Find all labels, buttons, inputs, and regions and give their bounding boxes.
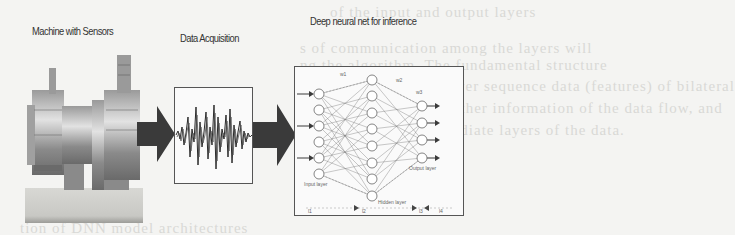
svg-text:Hidden layer: Hidden layer bbox=[378, 199, 406, 205]
bleed-text-2: s of communication among the layers will bbox=[300, 40, 592, 57]
bleed-text-5: further information of the data flow, an… bbox=[440, 100, 723, 117]
svg-text:w2: w2 bbox=[396, 77, 403, 83]
svg-text:Input layer: Input layer bbox=[304, 181, 328, 187]
arrow-acquisition-to-inference bbox=[253, 104, 297, 166]
svg-text:l4: l4 bbox=[439, 208, 443, 214]
inference-stage-label: Deep neural net for inference bbox=[310, 15, 416, 27]
svg-text:l1: l1 bbox=[308, 208, 312, 214]
arrow-machine-to-acquisition bbox=[137, 106, 177, 162]
svg-text:l2: l2 bbox=[362, 208, 366, 214]
svg-text:w3: w3 bbox=[416, 89, 423, 95]
acquisition-stage-label: Data Acquisition bbox=[180, 32, 239, 44]
machine-illustration bbox=[22, 50, 147, 225]
bleed-text-4: lower sequence data (features) of bilate… bbox=[440, 78, 735, 95]
signal-waveform-box bbox=[174, 87, 254, 185]
bleed-text-6: mediate layers of the data. bbox=[440, 122, 625, 139]
svg-text:l3: l3 bbox=[419, 208, 423, 214]
svg-text:w1: w1 bbox=[340, 71, 347, 77]
machine-stage-label: Machine with Sensors bbox=[32, 25, 113, 37]
svg-text:Output layer: Output layer bbox=[409, 165, 437, 171]
neural-network-diagram: w1 w2 w3 Input layer Hidden layer Output… bbox=[294, 66, 466, 218]
